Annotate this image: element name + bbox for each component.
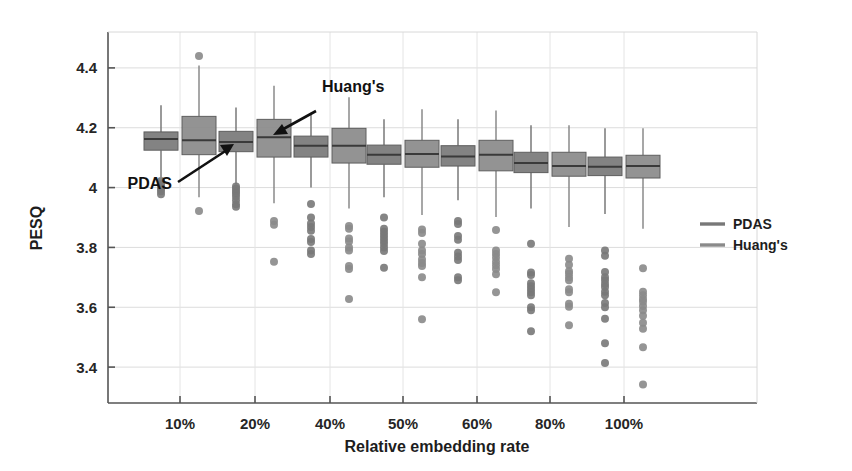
outlier-point <box>454 256 462 264</box>
y-tick-label: 3.8 <box>76 239 97 256</box>
box-plot-item[interactable] <box>405 109 439 323</box>
outlier-point <box>527 306 535 314</box>
outlier-point <box>527 327 535 335</box>
x-tick-label: 60% <box>462 415 492 432</box>
y-axis-ticks: 3.43.63.844.24.4 <box>76 59 115 375</box>
box-iqr <box>552 152 586 176</box>
chart-figure: 3.43.63.844.24.4 10%20%40%50%60%80%100% … <box>0 0 852 471</box>
outlier-point <box>380 247 388 255</box>
y-tick-label: 3.6 <box>76 299 97 316</box>
box-plot-item[interactable] <box>332 97 366 303</box>
outlier-point <box>565 276 573 284</box>
outlier-point <box>565 321 573 329</box>
annotation-huangs-label: Huang's <box>322 78 385 95</box>
gridlines <box>108 32 757 403</box>
outlier-point <box>307 250 315 258</box>
outlier-point <box>639 325 647 333</box>
outlier-point <box>418 273 426 281</box>
outlier-point <box>418 315 426 323</box>
outlier-point <box>492 270 500 278</box>
outlier-point <box>601 303 609 311</box>
outlier-point <box>527 291 535 299</box>
outlier-point <box>527 240 535 248</box>
outlier-point <box>307 227 315 235</box>
x-axis-title: Relative embedding rate <box>345 438 530 455</box>
annotation-huangs: Huang's <box>273 78 385 135</box>
box-plot-item[interactable] <box>257 86 291 266</box>
outlier-point <box>639 264 647 272</box>
box-series-huangs <box>182 52 660 389</box>
legend-label-huangs: Huang's <box>733 237 788 253</box>
outlier-point <box>195 52 203 60</box>
outlier-point <box>601 315 609 323</box>
x-axis-ticks: 10%20%40%50%60%80%100% <box>165 396 643 432</box>
outlier-point <box>232 203 240 211</box>
outlier-point <box>380 214 388 222</box>
box-plot-item[interactable] <box>479 110 513 296</box>
outlier-point <box>639 380 647 388</box>
outlier-point <box>601 252 609 260</box>
outlier-point <box>492 288 500 296</box>
box-plot-item[interactable] <box>626 128 660 388</box>
x-tick-label: 80% <box>535 415 565 432</box>
box-plot-item[interactable] <box>441 119 475 284</box>
outlier-point <box>454 276 462 284</box>
outlier-point <box>601 291 609 299</box>
outlier-point <box>418 262 426 270</box>
legend-item-pdas[interactable]: PDAS <box>700 216 772 232</box>
outlier-point <box>639 343 647 351</box>
boxplot-svg: 3.43.63.844.24.4 10%20%40%50%60%80%100% … <box>0 0 852 471</box>
box-plot-item[interactable] <box>219 107 253 210</box>
outlier-point <box>380 264 388 272</box>
outlier-point <box>345 295 353 303</box>
outlier-point <box>195 207 203 215</box>
legend-label-pdas: PDAS <box>733 216 772 232</box>
outlier-point <box>307 238 315 246</box>
x-tick-label: 40% <box>315 415 345 432</box>
box-plot-item[interactable] <box>182 52 216 215</box>
outlier-point <box>307 200 315 208</box>
outlier-point <box>527 271 535 279</box>
outlier-point <box>639 312 647 320</box>
outlier-point <box>345 225 353 233</box>
outlier-point <box>601 339 609 347</box>
outlier-point <box>345 265 353 273</box>
box-plot-item[interactable] <box>552 125 586 329</box>
outlier-point <box>454 220 462 228</box>
outlier-point <box>601 359 609 367</box>
y-tick-label: 4.4 <box>76 59 98 76</box>
outlier-point <box>565 303 573 311</box>
box-iqr <box>144 132 178 150</box>
x-tick-label: 10% <box>165 415 195 432</box>
box-plot-item[interactable] <box>514 125 548 335</box>
legend-item-huangs[interactable]: Huang's <box>700 237 788 253</box>
y-tick-label: 4.2 <box>76 119 97 136</box>
box-plot-item[interactable] <box>294 113 328 258</box>
outlier-point <box>492 226 500 234</box>
x-tick-label: 20% <box>240 415 270 432</box>
box-plot-item[interactable] <box>367 119 401 271</box>
y-axis-title: PESQ <box>28 206 45 250</box>
box-iqr <box>182 116 216 154</box>
annotation-pdas: PDAS <box>128 144 234 192</box>
outlier-point <box>418 229 426 237</box>
axes-frame <box>108 32 757 403</box>
outlier-point <box>270 221 278 229</box>
y-tick-label: 3.4 <box>76 359 98 376</box>
x-tick-label: 100% <box>605 415 643 432</box>
outlier-point <box>345 246 353 254</box>
x-tick-label: 50% <box>388 415 418 432</box>
annotation-pdas-label: PDAS <box>128 175 173 192</box>
y-tick-label: 4 <box>89 179 98 196</box>
outlier-point <box>270 258 278 266</box>
box-plot-series <box>144 52 660 389</box>
outlier-point <box>454 236 462 244</box>
outlier-point <box>565 288 573 296</box>
